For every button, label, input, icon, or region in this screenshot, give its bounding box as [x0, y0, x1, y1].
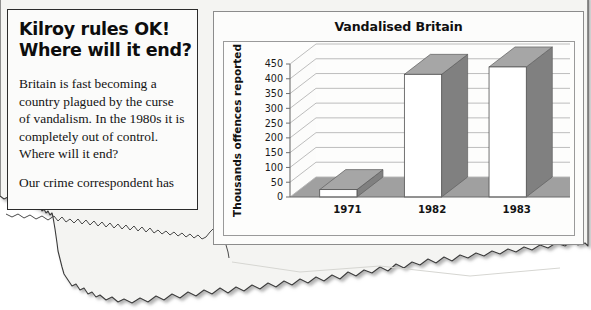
y-tick-label: 300: [265, 103, 283, 114]
bar-front-face: [489, 67, 526, 197]
article-paragraph-2: Our crime correspondent has: [19, 174, 187, 192]
plot-area: 050100150200250300350400450Thousands off…: [223, 41, 575, 236]
y-tick-label: 250: [265, 118, 283, 129]
y-tick-label: 450: [265, 58, 283, 69]
y-tick-label: 150: [265, 147, 283, 158]
page-title: Kilroy rules OK! Where will it end?: [19, 19, 187, 60]
bar-group: [404, 54, 467, 197]
headline-line-2: Where will it end?: [19, 40, 187, 61]
bar-group: [489, 47, 552, 197]
bar-side-face: [442, 54, 468, 197]
y-tick-label: 100: [265, 162, 283, 173]
bar-front-face: [404, 74, 441, 197]
bar-chart-3d: 050100150200250300350400450Thousands off…: [224, 42, 574, 235]
x-tick-label: 1971: [333, 204, 361, 215]
bar-side-face: [526, 47, 552, 197]
y-tick-label: 200: [265, 132, 283, 143]
article-panel: Kilroy rules OK! Where will it end? Brit…: [7, 9, 198, 210]
y-tick-label: 50: [271, 177, 283, 188]
chart-panel: Vandalised Britain 050100150200250300350…: [213, 11, 584, 245]
x-tick-label: 1982: [418, 204, 446, 215]
x-tick-label: 1983: [503, 204, 531, 215]
headline-line-1: Kilroy rules OK!: [19, 19, 187, 40]
chart-title: Vandalised Britain: [214, 19, 583, 34]
y-tick-label: 350: [265, 88, 283, 99]
y-tick-label: 0: [277, 191, 283, 202]
y-tick-label: 400: [265, 73, 283, 84]
article-paragraph-1: Britain is fast becoming a country plagu…: [19, 75, 187, 163]
bar-front-face: [320, 190, 357, 197]
y-axis-title: Thousands offences reported: [231, 44, 243, 217]
